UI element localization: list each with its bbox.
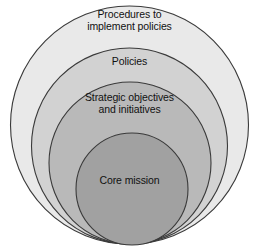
ring-4-circle [76,133,188,245]
concentric-circles-diagram [0,0,259,252]
diagram-canvas: Procedures to implement policies Policie… [0,0,259,252]
